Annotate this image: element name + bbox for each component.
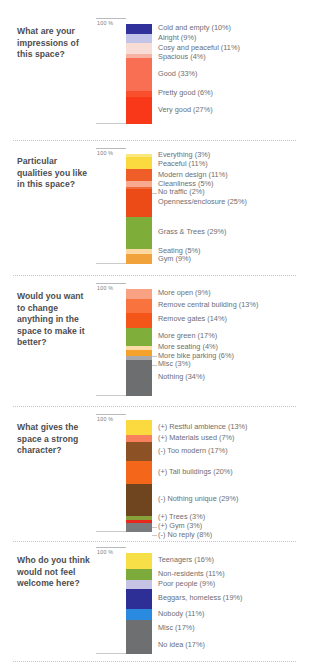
axis-top-tick: 100 % bbox=[96, 283, 126, 291]
label-leader-line bbox=[152, 527, 157, 528]
segment-label: (+) Restful ambience (13%) bbox=[158, 423, 248, 431]
y-axis: 100 % bbox=[92, 414, 126, 532]
segment-label: Non-residents (11%) bbox=[158, 570, 225, 578]
bar-segment[interactable] bbox=[126, 328, 152, 346]
axis-baseline bbox=[96, 263, 126, 264]
question-text: What are your impressions of this space? bbox=[0, 14, 92, 61]
question-row: Particular qualities you like in this sp… bbox=[0, 148, 309, 264]
segment-label: Very good (27%) bbox=[158, 106, 213, 114]
axis-top-tick: 100 % bbox=[96, 414, 126, 422]
segment-label: Beggars, homeless (19%) bbox=[158, 594, 242, 602]
section-divider bbox=[13, 661, 296, 663]
survey-chart-page: What are your impressions of this space?… bbox=[0, 0, 309, 665]
axis-label-100-percent: 100 % bbox=[96, 549, 126, 555]
question-text: Would you want to change anything in the… bbox=[0, 283, 92, 349]
axis-baseline bbox=[96, 531, 126, 532]
section-divider bbox=[13, 541, 296, 543]
label-leader-line bbox=[152, 365, 157, 366]
axis-top-tick: 100 % bbox=[96, 148, 126, 156]
bar-segment[interactable] bbox=[126, 217, 152, 249]
bar-segment[interactable] bbox=[126, 97, 152, 124]
stacked-bar bbox=[126, 154, 152, 264]
bar-segment[interactable] bbox=[126, 289, 152, 299]
stacked-bar bbox=[126, 420, 152, 532]
bar-segment[interactable] bbox=[126, 58, 152, 91]
segment-label: Nobody (11%) bbox=[158, 610, 204, 618]
bar-segment[interactable] bbox=[126, 24, 152, 34]
bar-segment[interactable] bbox=[126, 484, 152, 516]
question-block: Particular qualities you like in this sp… bbox=[0, 148, 309, 264]
bar-segment[interactable] bbox=[126, 442, 152, 461]
segment-label-list: Cold and empty (10%)Alright (9%)Cosy and… bbox=[158, 14, 309, 124]
question-row: Who do you think would not feel welcome … bbox=[0, 549, 309, 654]
segment-label: Grass & Trees (29%) bbox=[158, 228, 227, 236]
segment-label: No traffic (2%) bbox=[158, 188, 205, 196]
bar-segment[interactable] bbox=[126, 254, 152, 264]
axis-label-100-percent: 100 % bbox=[96, 416, 126, 422]
segment-label: Good (33%) bbox=[158, 70, 198, 78]
question-block: What gives the space a strong character?… bbox=[0, 414, 309, 532]
question-block: What are your impressions of this space?… bbox=[0, 14, 309, 124]
question-row: What are your impressions of this space?… bbox=[0, 14, 309, 124]
segment-label: (-) Nothing unique (29%) bbox=[158, 495, 238, 503]
bar-segment[interactable] bbox=[126, 313, 152, 328]
segment-label: More open (9%) bbox=[158, 289, 211, 297]
segment-label-list: Everything (3%)Peaceful (11%)Modern desi… bbox=[158, 148, 309, 264]
segment-label: (-) Too modern (17%) bbox=[158, 447, 228, 455]
bar-segment[interactable] bbox=[126, 169, 152, 181]
segment-label: (+) Gym (3%) bbox=[158, 522, 202, 530]
y-axis: 100 % bbox=[92, 283, 126, 396]
bar-segment[interactable] bbox=[126, 360, 152, 396]
segment-label: Remove gates (14%) bbox=[158, 315, 227, 323]
axis-label-100-percent: 100 % bbox=[96, 150, 126, 156]
segment-label: Misc (3%) bbox=[158, 360, 191, 368]
question-text: What gives the space a strong character? bbox=[0, 414, 92, 457]
segment-label: Poor people (9%) bbox=[158, 580, 215, 588]
axis-label-100-percent: 100 % bbox=[96, 285, 126, 291]
y-axis: 100 % bbox=[92, 14, 126, 124]
section-divider bbox=[13, 140, 296, 142]
segment-label: Gym (9%) bbox=[158, 255, 191, 263]
segment-label: (+) Tall buildings (20%) bbox=[158, 468, 233, 476]
bar-segment[interactable] bbox=[126, 609, 152, 620]
bar-segment[interactable] bbox=[126, 461, 152, 483]
segment-label: Peaceful (11%) bbox=[158, 160, 208, 168]
question-block: Who do you think would not feel welcome … bbox=[0, 549, 309, 654]
segment-label: Teenagers (16%) bbox=[158, 556, 214, 564]
segment-label: Cosy and peaceful (11%) bbox=[158, 44, 240, 52]
bar-segment[interactable] bbox=[126, 620, 152, 637]
segment-label: Misc (17%) bbox=[158, 624, 195, 632]
bar-segment[interactable] bbox=[126, 43, 152, 54]
axis-top-tick: 100 % bbox=[96, 18, 126, 26]
question-row: Would you want to change anything in the… bbox=[0, 283, 309, 396]
bar-segment[interactable] bbox=[126, 580, 152, 589]
segment-label-list: Teenagers (16%)Non-residents (11%)Poor p… bbox=[158, 549, 309, 654]
bar-segment[interactable] bbox=[126, 420, 152, 435]
segment-label: (-) No reply (8%) bbox=[158, 531, 212, 539]
segment-label: More green (17%) bbox=[158, 332, 217, 340]
bar-segment[interactable] bbox=[126, 553, 152, 569]
segment-label: Remove central building (13%) bbox=[158, 301, 258, 309]
bar-segment[interactable] bbox=[126, 299, 152, 313]
bar-segment[interactable] bbox=[126, 34, 152, 43]
label-leader-line bbox=[152, 356, 157, 357]
question-text: Who do you think would not feel welcome … bbox=[0, 549, 92, 590]
segment-label: Spacious (4%) bbox=[158, 53, 206, 61]
bar-segment[interactable] bbox=[126, 435, 152, 443]
label-leader-line bbox=[152, 535, 157, 536]
question-row: What gives the space a strong character?… bbox=[0, 414, 309, 532]
segment-label: Cold and empty (10%) bbox=[158, 24, 231, 32]
axis-baseline bbox=[96, 123, 126, 124]
bar-segment[interactable] bbox=[126, 637, 152, 654]
segment-label-list: More open (9%)Remove central building (1… bbox=[158, 283, 309, 396]
axis-label-100-percent: 100 % bbox=[96, 20, 126, 26]
segment-label: Nothing (34%) bbox=[158, 373, 205, 381]
bar-segment[interactable] bbox=[126, 189, 152, 217]
bar-segment[interactable] bbox=[126, 589, 152, 608]
question-text: Particular qualities you like in this sp… bbox=[0, 148, 92, 191]
y-axis: 100 % bbox=[92, 148, 126, 264]
question-block: Would you want to change anything in the… bbox=[0, 283, 309, 396]
bar-segment[interactable] bbox=[126, 523, 152, 532]
bar-segment[interactable] bbox=[126, 157, 152, 169]
bar-segment[interactable] bbox=[126, 569, 152, 580]
